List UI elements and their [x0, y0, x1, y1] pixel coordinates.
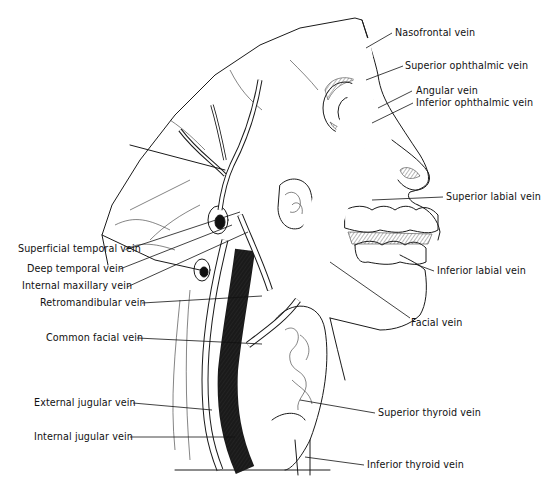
label-inferior-ophthalmic-vein: Inferior ophthalmic vein — [416, 97, 533, 109]
label-inferior-thyroid-vein: Inferior thyroid vein — [367, 459, 464, 471]
label-nasofrontal-vein: Nasofrontal vein — [395, 27, 475, 39]
label-common-facial-vein: Common facial vein — [46, 332, 143, 344]
label-retromandibular-vein: Retromandibular vein — [40, 297, 146, 309]
label-angular-vein: Angular vein — [416, 85, 478, 97]
label-external-jugular-vein: External jugular vein — [34, 397, 136, 409]
teeth — [345, 206, 438, 264]
facial-vein-drawing — [262, 38, 375, 345]
temporal-vein-drawing — [130, 80, 260, 210]
nose — [392, 140, 430, 190]
label-inferior-labial-vein: Inferior labial vein — [437, 265, 526, 277]
label-internal-maxillary-vein: Internal maxillary vein — [22, 280, 132, 292]
leader-lines — [120, 33, 443, 465]
label-superior-labial-vein: Superior labial vein — [446, 191, 541, 203]
label-internal-jugular-vein: Internal jugular vein — [34, 431, 133, 443]
label-facial-vein: Facial vein — [411, 317, 462, 329]
label-superficial-temporal-vein: Superficial temporal vein — [18, 243, 141, 255]
label-deep-temporal-vein: Deep temporal vein — [27, 263, 124, 275]
label-superior-ophthalmic-vein: Superior ophthalmic vein — [405, 60, 528, 72]
label-superior-thyroid-vein: Superior thyroid vein — [378, 407, 481, 419]
